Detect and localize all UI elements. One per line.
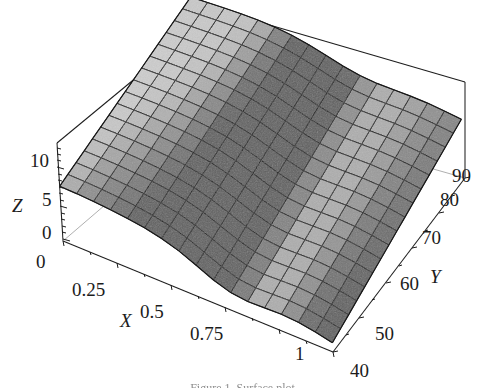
z-tick-label-2: 10 [30,150,49,171]
plot-canvas: 00.250.50.751X405060708090Y0510Z [0,0,485,388]
x-tick-label-3: 0.75 [190,323,223,344]
z-tick-label-0: 0 [42,222,52,243]
x-tick-label-1: 0.25 [72,279,105,300]
x-tick-label-2: 0.5 [140,301,164,322]
x-tick-label-4: 1 [295,343,305,364]
z-axis-title: Z [12,195,23,216]
x-axis-title: X [119,310,133,331]
y-tick-label-0: 40 [350,360,369,381]
z-tick-label-1: 5 [42,189,52,210]
y-tick-label-4: 80 [440,189,459,210]
figure-caption: Figure 1. Surface plot [0,382,485,388]
surface-plot-figure: 00.250.50.751X405060708090Y0510Z Figure … [0,0,485,388]
y-tick-label-1: 50 [375,323,394,344]
y-tick-label-5: 90 [452,165,471,186]
y-tick-label-3: 70 [422,227,441,248]
y-tick-label-2: 60 [400,273,419,294]
x-tick-label-0: 0 [36,251,46,272]
